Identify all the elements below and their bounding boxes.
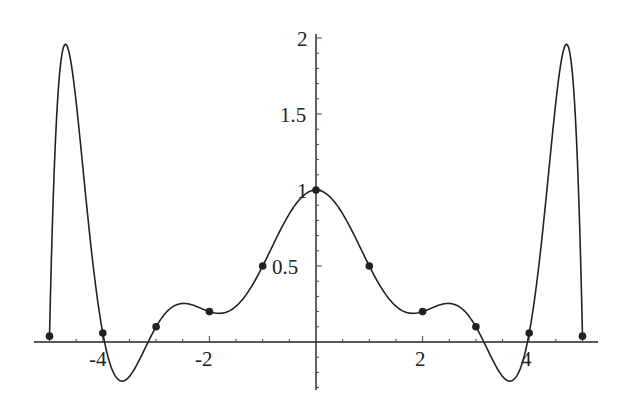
x-tick-label: 2 xyxy=(415,347,426,371)
y-tick-label: 0.5 xyxy=(272,255,298,279)
x-tick-label: -4 xyxy=(89,347,107,371)
runge-plot: -4 -2 2 4 0.5 1 1.5 2 xyxy=(0,0,625,408)
data-point xyxy=(472,323,480,331)
data-point xyxy=(579,332,587,340)
data-point xyxy=(419,308,427,316)
data-point xyxy=(46,332,54,340)
y-tick-label: 1.5 xyxy=(280,103,306,127)
axes xyxy=(34,34,598,390)
tick-labels: -4 -2 2 4 0.5 1 1.5 2 xyxy=(89,27,532,371)
data-point xyxy=(152,323,160,331)
data-point xyxy=(366,262,374,270)
data-point xyxy=(259,262,267,270)
data-point xyxy=(312,186,320,194)
x-tick-label: -2 xyxy=(195,347,213,371)
y-tick-label: 2 xyxy=(297,27,308,51)
data-point xyxy=(99,329,107,337)
data-point xyxy=(206,308,214,316)
data-point xyxy=(525,329,533,337)
